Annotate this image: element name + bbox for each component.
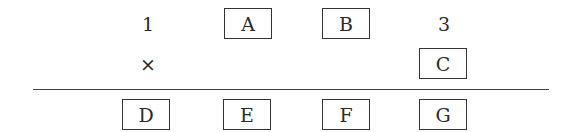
box-c: C <box>419 48 467 79</box>
box-f: F <box>322 99 370 130</box>
box-b: B <box>322 8 370 39</box>
digit-3: 3 <box>420 8 468 39</box>
result-divider-line <box>33 89 549 90</box>
box-d: D <box>122 99 170 130</box>
digit-1: 1 <box>124 8 172 39</box>
box-e: E <box>223 99 271 130</box>
box-a: A <box>224 8 272 39</box>
multiply-sign: × <box>124 48 172 79</box>
box-g: G <box>419 99 467 130</box>
